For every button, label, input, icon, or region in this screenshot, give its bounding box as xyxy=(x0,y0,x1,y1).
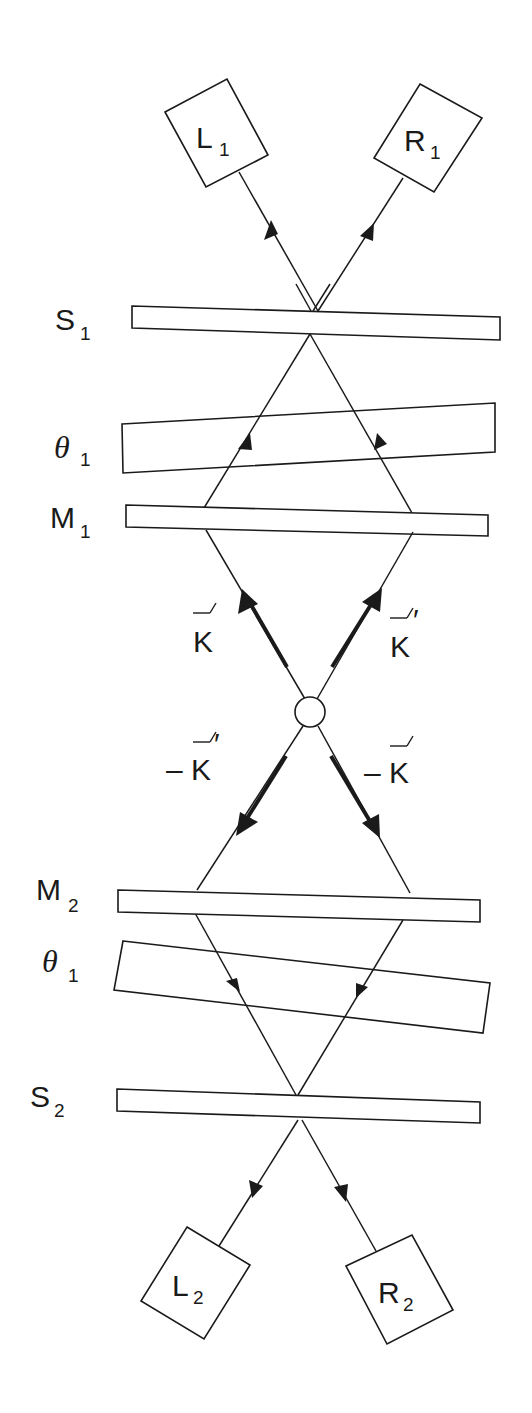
label-neg-k-minus: – xyxy=(364,756,381,789)
arrowhead-icon xyxy=(238,433,252,450)
arrowhead-icon xyxy=(374,433,387,450)
vector-k-shaft xyxy=(250,603,287,667)
arrowhead-icon xyxy=(334,1184,348,1202)
ray-right-upper xyxy=(310,334,412,513)
arrowhead-icon xyxy=(226,978,240,992)
ray-to-R2 xyxy=(302,1120,376,1251)
plate-theta-lower xyxy=(114,941,490,1033)
label-neg-k: – K xyxy=(364,736,413,789)
plate-S1 xyxy=(132,306,500,340)
label-neg-k-prime: – K ′ xyxy=(166,727,220,786)
arrowhead-icon xyxy=(356,983,368,998)
plate-S2-subscript: 2 xyxy=(54,1100,65,1121)
plate-S2-label: S xyxy=(30,1080,50,1113)
plate-M1-subscript: 1 xyxy=(80,521,91,542)
ray-neg-k-prime xyxy=(197,726,303,890)
detector-R1-subscript: 1 xyxy=(430,142,441,163)
plate-M1 xyxy=(126,505,488,536)
plate-M2 xyxy=(118,890,480,922)
label-k-prime-text: K xyxy=(390,630,410,663)
label-neg-k-prime-mark: ′ xyxy=(214,727,220,760)
vector-neg-k-arrowhead-icon xyxy=(362,814,380,838)
plate-M1-label: M xyxy=(50,501,75,534)
detector-L1-label: L xyxy=(196,121,213,154)
vector-k-prime-arrowhead-icon xyxy=(362,588,382,612)
source-circle xyxy=(295,697,325,727)
label-neg-k-prime-minus: – xyxy=(166,753,183,786)
detector-L1-subscript: 1 xyxy=(219,139,230,160)
ray-right-lower xyxy=(298,920,403,1095)
detector-L2-subscript: 2 xyxy=(193,1287,204,1308)
detector-L1: L 1 xyxy=(165,79,268,187)
interferometer-diagram: L 1 R 1 S 1 θ 1 M 1 K xyxy=(0,0,532,1413)
ray-left-upper xyxy=(204,334,310,508)
detector-R2-label: R xyxy=(378,1276,400,1309)
label-k: K xyxy=(193,603,216,658)
plate-M2-subscript: 2 xyxy=(68,895,79,916)
detector-R1: R 1 xyxy=(374,84,482,192)
plate-theta-upper xyxy=(122,403,495,473)
vector-neg-k-prime-shaft xyxy=(246,756,286,820)
plate-theta-upper-subscript: 1 xyxy=(80,449,91,470)
label-k-prime: K ′ xyxy=(390,603,419,663)
detector-R2-subscript: 2 xyxy=(403,1294,414,1315)
detector-R1-label: R xyxy=(404,124,426,157)
label-k-text: K xyxy=(193,625,213,658)
plate-theta-lower-subscript: 1 xyxy=(68,965,79,986)
plate-S1-label: S xyxy=(55,303,75,336)
ray-to-L1 xyxy=(239,172,318,311)
plate-theta-lower-label: θ xyxy=(42,943,58,979)
plate-S1-subscript: 1 xyxy=(80,323,91,344)
ray-segment xyxy=(296,284,311,311)
plate-theta-upper-label: θ xyxy=(54,429,70,465)
arrowhead-icon xyxy=(360,223,374,241)
ray-to-R1 xyxy=(318,178,403,311)
vector-k-prime-shaft xyxy=(332,603,372,667)
label-k-prime-mark: ′ xyxy=(413,603,419,636)
plate-M2-label: M xyxy=(36,873,61,906)
ray-to-L2 xyxy=(219,1120,298,1246)
detector-L2: L 2 xyxy=(141,1227,250,1339)
ray-left-lower xyxy=(195,913,296,1095)
label-neg-k-prime-text: K xyxy=(191,753,211,786)
detector-R2: R 2 xyxy=(346,1235,453,1344)
label-neg-k-text: K xyxy=(389,756,409,789)
detector-L2-label: L xyxy=(172,1269,189,1302)
